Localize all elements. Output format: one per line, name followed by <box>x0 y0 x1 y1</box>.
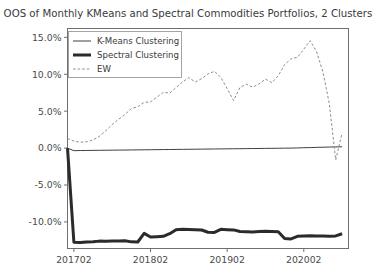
legend-label: Spectral Clustering <box>97 50 179 60</box>
x-tick-label: 201702 <box>56 254 92 265</box>
y-tick-label: 0.0% <box>38 142 62 153</box>
y-tick-label: -10.0% <box>29 216 62 227</box>
y-tick-label: 15.0% <box>32 32 62 43</box>
y-tick-label: 5.0% <box>38 106 62 117</box>
chart-legend: K-Means ClusteringSpectral ClusteringEW <box>69 32 182 78</box>
chart-title: OOS of Monthly KMeans and Spectral Commo… <box>4 8 373 19</box>
x-tick-label: 201902 <box>209 254 245 265</box>
line-chart: OOS of Monthly KMeans and Spectral Commo… <box>0 0 376 278</box>
x-tick-label: 201802 <box>133 254 169 265</box>
y-tick-label: -5.0% <box>35 179 62 190</box>
x-tick-label: 202002 <box>286 254 322 265</box>
chart-figure: OOS of Monthly KMeans and Spectral Commo… <box>0 0 376 278</box>
y-tick-label: 10.0% <box>32 69 62 80</box>
legend-label: EW <box>97 64 111 74</box>
legend-label: K-Means Clustering <box>97 36 179 46</box>
